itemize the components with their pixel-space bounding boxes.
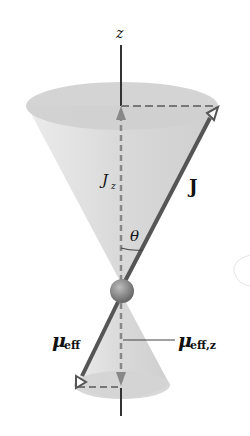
mu-eff-z-sub-label: eff,z [190,339,216,352]
theta-label: θ [130,227,139,245]
z-axis-label: z [115,25,124,41]
scan-artifact [234,255,250,286]
mu-eff-sub-label: eff [64,339,81,352]
j-vector-label: J [187,176,198,197]
particle-sphere [110,279,134,303]
precession-diagram: z J z J θ μ eff μ eff,z [0,0,250,436]
jz-sub-label: z [110,181,116,191]
